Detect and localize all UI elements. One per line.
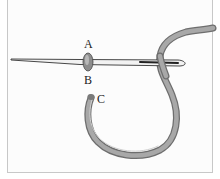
thread-end-icon bbox=[87, 94, 94, 100]
bead-icon bbox=[83, 53, 93, 71]
label-a: A bbox=[84, 37, 93, 51]
thread-icon bbox=[88, 28, 213, 156]
needle-bead-illustration: A B C bbox=[0, 0, 220, 179]
label-b: B bbox=[84, 73, 92, 87]
label-c: C bbox=[97, 92, 105, 106]
